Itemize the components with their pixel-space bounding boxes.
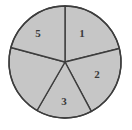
pie-slice-label-2: 2 [94, 69, 100, 80]
pie-chart-svg [0, 0, 132, 130]
pie-slice-label-1: 1 [79, 28, 85, 39]
pie-slice-label-3: 3 [61, 96, 67, 107]
pie-slice-label-5: 5 [35, 28, 41, 39]
pie-figure: 5 1 2 3 [0, 0, 132, 130]
